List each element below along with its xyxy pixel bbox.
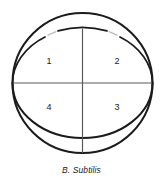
quadrant-label-3: 3 [110,103,124,112]
petri-dish-diagram [0,0,163,163]
inner-lens-upper-arc-gap-left [48,32,56,36]
quadrant-label-4: 4 [42,103,56,112]
quadrant-label-1: 1 [42,57,56,66]
inner-lens-upper-arc-gap-right [109,32,117,36]
figure-caption: B. Subtilis [0,165,163,176]
quadrant-label-2: 2 [110,57,124,66]
figure-container: 1 2 3 4 B. Subtilis [0,0,163,186]
